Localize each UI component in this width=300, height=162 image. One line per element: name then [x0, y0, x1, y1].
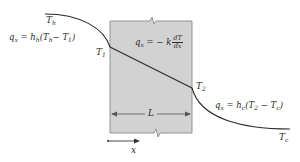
hot-side-convection-equation: qx = hh(Th− T1) [9, 33, 75, 43]
eq-cond-fraction: dTdx [172, 35, 183, 49]
eq-hot-close: ) [72, 32, 75, 42]
label-x-text: x [131, 145, 136, 155]
label-x: x [131, 146, 136, 155]
eq-cold-minus: − T [258, 100, 276, 110]
eq-cold-h: = h [224, 100, 242, 110]
eq-hot-open: (T [40, 32, 49, 42]
label-T-2-sub: 2 [202, 85, 206, 92]
label-L: L [147, 109, 155, 118]
eq-hot-minus: − T [53, 32, 69, 42]
label-T-c-sub: c [285, 136, 288, 143]
label-T-2: T2 [196, 82, 206, 92]
conduction-equation: qx = − kdTdx [135, 35, 183, 49]
label-T-h-sub: h [52, 19, 56, 26]
label-L-text: L [148, 108, 154, 118]
x-direction-arrow [107, 139, 140, 144]
label-T-1: T1 [96, 48, 106, 58]
label-T-c: Tc [279, 133, 288, 143]
eq-hot-h: = h [18, 32, 36, 42]
label-T-1-sub: 1 [102, 51, 106, 58]
eq-cond-rhs: = − k [144, 37, 172, 47]
heat-conduction-diagram [0, 0, 300, 162]
eq-cold-open: (T [245, 100, 254, 110]
label-T-h: Th [46, 16, 56, 26]
eq-cond-frac-den: dx [172, 43, 183, 50]
eq-cold-close: ) [280, 100, 283, 110]
cold-side-convection-equation: qx = hc(T2 − Tc) [215, 101, 283, 111]
